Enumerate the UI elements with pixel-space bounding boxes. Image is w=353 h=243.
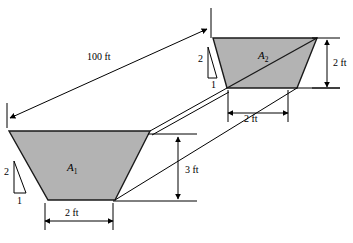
slope-label-left-rise: 2 (4, 167, 9, 177)
area-label-a1: A1 (67, 162, 77, 176)
dimension-label-a2-width: 2 ft (244, 114, 258, 124)
dimension-label-a2-depth: 2 ft (333, 58, 347, 68)
dimension-100ft-line (10, 29, 207, 118)
reach-top-edge-line (150, 88, 227, 131)
slope-triangle-right-hypotenuse (208, 47, 217, 78)
slope-label-right-rise: 2 (198, 54, 203, 64)
figure-container: 100 ft 3 ft 2 ft 2 ft 2 ft 2 1 2 1 A1 A2 (0, 0, 353, 243)
slope-label-left-run: 1 (17, 196, 22, 206)
area-label-a2-subscript: 2 (265, 55, 269, 64)
area-label-a1-text: A (67, 161, 74, 173)
trapezoid-a1-shape (9, 131, 150, 200)
reach-invert-line (152, 92, 229, 135)
area-label-a2-text: A (258, 49, 265, 61)
dimension-label-3ft: 3 ft (185, 165, 199, 175)
slope-triangle-left-hypotenuse (14, 161, 26, 193)
area-label-a1-subscript: 1 (74, 167, 78, 176)
area-label-a2: A2 (258, 50, 268, 64)
slope-label-right-run: 1 (211, 80, 216, 90)
dimension-label-a1-width: 2 ft (65, 208, 79, 218)
figure-drawing (0, 0, 353, 243)
dimension-label-100ft: 100 ft (87, 52, 111, 62)
